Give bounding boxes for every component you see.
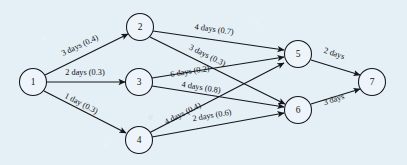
node-3[interactable]: 3 [126,69,153,96]
node-label-7: 7 [370,77,375,87]
node-label-4: 4 [137,135,142,145]
network-diagram-canvas: 3 days (0.4)2 days (0.3)1 day (0.3)4 day… [0,0,407,165]
node-label-1: 1 [31,77,36,87]
edge-label-1-to-2: 3 days (0.4) [60,33,100,58]
node-1[interactable]: 1 [20,69,47,96]
edge-label-3-to-5: 6 days (0.2) [170,64,211,79]
node-label-2: 2 [138,22,143,32]
edge-label-6-to-7: 3 days [322,92,345,107]
edge-label-1-to-3: 2 days (0.3) [65,68,105,77]
edge-label-5-to-7: 2 days [323,46,346,61]
edge-1-to-4 [44,91,126,133]
node-label-3: 3 [137,77,142,87]
node-label-5: 5 [296,49,301,59]
node-label-6: 6 [296,105,301,115]
node-2[interactable]: 2 [127,14,154,41]
node-5[interactable]: 5 [285,41,312,68]
node-4[interactable]: 4 [126,127,153,154]
edge-label-3-to-6: 4 days (0.8) [181,80,222,95]
edge-label-2-to-5: 4 days (0.7) [194,22,235,36]
edge-5-to-7 [311,60,360,75]
node-6[interactable]: 6 [285,97,312,124]
network-diagram-figure: 3 days (0.4)2 days (0.3)1 day (0.3)4 day… [0,0,407,165]
node-7[interactable]: 7 [359,69,386,96]
